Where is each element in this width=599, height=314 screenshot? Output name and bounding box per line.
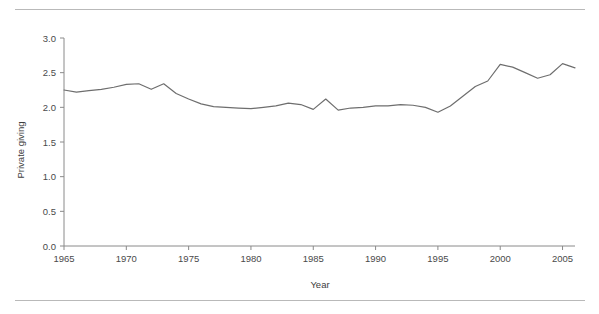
series-line-private-giving bbox=[64, 64, 575, 113]
y-tick-label: 1.5 bbox=[43, 137, 56, 148]
x-tick-label: 1965 bbox=[53, 253, 74, 264]
y-axis-title: Private giving bbox=[15, 121, 26, 178]
line-chart: 0.00.51.01.52.02.53.0 196519701975198019… bbox=[0, 0, 599, 314]
y-tick-label: 0.5 bbox=[43, 206, 56, 217]
x-tick-label: 1990 bbox=[365, 253, 386, 264]
x-tick-label: 1980 bbox=[240, 253, 261, 264]
x-tick-label: 2005 bbox=[552, 253, 573, 264]
x-tick-label: 1995 bbox=[427, 253, 448, 264]
x-axis: 196519701975198019851990199520002005 bbox=[53, 246, 575, 264]
x-tick-label: 1970 bbox=[116, 253, 137, 264]
y-tick-label: 2.5 bbox=[43, 67, 56, 78]
data-series-group bbox=[64, 64, 575, 113]
x-tick-label: 1985 bbox=[303, 253, 324, 264]
y-axis: 0.00.51.01.52.02.53.0 bbox=[43, 33, 64, 252]
y-tick-label: 0.0 bbox=[43, 241, 56, 252]
x-axis-title: Year bbox=[310, 279, 329, 290]
figure-container: 0.00.51.01.52.02.53.0 196519701975198019… bbox=[0, 0, 599, 314]
x-tick-label: 2000 bbox=[490, 253, 511, 264]
y-tick-label: 3.0 bbox=[43, 33, 56, 44]
x-tick-label: 1975 bbox=[178, 253, 199, 264]
y-tick-label: 1.0 bbox=[43, 171, 56, 182]
y-tick-label: 2.0 bbox=[43, 102, 56, 113]
